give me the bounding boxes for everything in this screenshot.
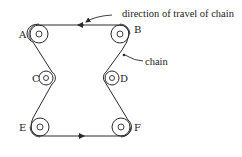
label-c: C xyxy=(32,73,40,84)
chain-pointer-icon xyxy=(125,55,143,61)
chain-pointer-dot-icon xyxy=(123,54,126,57)
label-a: A xyxy=(18,29,27,40)
chain-label: chain xyxy=(145,56,168,67)
label-f: F xyxy=(134,122,141,133)
pulley-e xyxy=(31,118,49,136)
direction-label: direction of travel of chain xyxy=(122,8,235,19)
pulley-b xyxy=(111,25,129,43)
pulley-a xyxy=(30,25,48,43)
pulley-f xyxy=(112,118,130,136)
label-b: B xyxy=(134,24,141,35)
pulley-d xyxy=(105,71,119,85)
label-d: D xyxy=(120,73,128,84)
label-e: E xyxy=(19,122,26,133)
pulley-c xyxy=(39,71,53,85)
chain-drive-diagram: A B C D E F direction of travel of chain… xyxy=(0,0,242,157)
direction-pointer-icon xyxy=(86,15,112,22)
